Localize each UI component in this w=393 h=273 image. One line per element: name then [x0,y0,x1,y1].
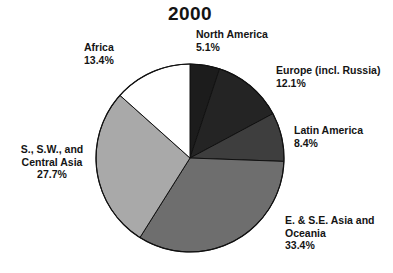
slice-label-name-line1: E. & S.E. Asia and [285,214,374,227]
slice-label-percent: 5.1% [196,41,268,54]
slice-label-east-southeast-asia-oceania: E. & S.E. Asia and Oceania 33.4% [285,214,374,252]
slice-label-percent: 13.4% [84,54,114,67]
slice-label-name-line2: Oceania [285,227,374,240]
slice-label-europe: Europe (incl. Russia) 12.1% [276,64,380,89]
slice-label-percent: 27.7% [2,168,102,181]
pie-slice-group [96,64,284,252]
slice-label-name: Africa [84,41,114,54]
slice-label-latin-america: Latin America 8.4% [294,124,363,149]
pie-chart-figure: 2000 North America 5.1% Europe (incl. Ru… [0,0,393,273]
slice-label-name-line2: Central Asia [2,156,102,169]
slice-label-africa: Africa 13.4% [84,41,114,66]
slice-label-percent: 12.1% [276,77,380,90]
slice-label-percent: 33.4% [285,239,374,252]
slice-label-percent: 8.4% [294,137,363,150]
slice-label-name: North America [196,28,268,41]
slice-label-name-line1: S., S.W., and [2,143,102,156]
slice-label-south-southwest-central-asia: S., S.W., and Central Asia 27.7% [2,143,102,181]
slice-label-name: Latin America [294,124,363,137]
slice-label-name: Europe (incl. Russia) [276,64,380,77]
slice-label-north-america: North America 5.1% [196,28,268,53]
